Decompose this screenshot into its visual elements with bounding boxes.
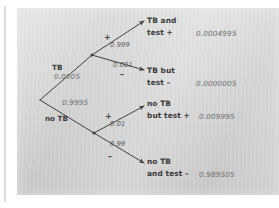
branch-sign-tb-negative: –: [120, 70, 124, 79]
node-label-no-tb: no TB: [45, 115, 68, 123]
outcome-2-line1: TB but: [147, 67, 175, 76]
outcome-1-value: 0.0004995: [196, 30, 237, 38]
outcome-3-line1: no TB: [147, 100, 171, 109]
outcome-4-line1: no TB: [147, 158, 171, 167]
outcome-3-line2: but test +: [147, 112, 190, 121]
outcome-4-line2: and test –: [147, 170, 189, 179]
outcome-1-line1: TB and: [147, 17, 176, 26]
branch-prob-no-tb-positive: 0.01: [110, 121, 125, 129]
outcome-2-value: 0.0000005: [196, 80, 237, 88]
node-prob-tb: 0.0005: [54, 73, 80, 81]
outcome-1-line2: test +: [147, 29, 173, 38]
branch-sign-no-tb-negative: –: [108, 152, 112, 161]
left-margin-rule: [4, 6, 6, 202]
branch-prob-no-tb-negative: 0.99: [110, 141, 125, 149]
screenshot-root: TB 0.0005 0.9995 no TB + – + – 0.999 0.0…: [0, 0, 279, 208]
branch-prob-tb-negative: 0.001: [113, 62, 133, 70]
node-prob-no-tb: 0.9995: [62, 99, 88, 107]
outcome-4-value: 0.989505: [199, 171, 235, 179]
outcome-3-value: 0.009995: [199, 113, 235, 121]
branch-prob-tb-positive: 0.999: [110, 42, 130, 50]
outcome-2-line2: test –: [147, 79, 170, 88]
